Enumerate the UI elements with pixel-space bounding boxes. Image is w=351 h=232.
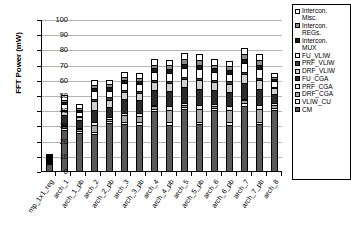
- y-axis-tick-label: 50: [46, 92, 68, 99]
- bar-segment: [121, 83, 128, 90]
- bar-segment: [91, 110, 98, 123]
- stacked-bar[interactable]: [241, 48, 248, 171]
- stacked-bar[interactable]: [226, 61, 233, 171]
- x-axis-label-cell: mp_1x1_reg: [41, 176, 56, 232]
- bar-segment: [211, 82, 218, 90]
- y-axis-tick-label: 0: [46, 168, 68, 175]
- bar-segment: [196, 89, 203, 105]
- bar-segment: [136, 84, 143, 91]
- stacked-bar[interactable]: [136, 73, 143, 171]
- legend-item[interactable]: FU_CGA: [295, 75, 349, 82]
- y-axis-tick-mark: [37, 50, 41, 51]
- bar-segment: [151, 111, 158, 171]
- legend-item[interactable]: FU_VLIW: [295, 52, 349, 59]
- x-axis-label-cell: arch_7_pb: [252, 176, 267, 232]
- legend-label: Intercon. MUX: [302, 37, 327, 51]
- bar-segment: [166, 125, 173, 171]
- bar-slot: [177, 20, 192, 171]
- bar-segment: [226, 92, 233, 106]
- legend-swatch-icon: [295, 9, 300, 14]
- plot-area: [41, 20, 282, 172]
- stacked-bar[interactable]: [106, 80, 113, 171]
- bar-segment: [76, 120, 83, 128]
- bar-segment: [271, 94, 278, 103]
- bar-segment: [91, 134, 98, 171]
- bar-segment: [196, 80, 203, 89]
- bar-segment: [106, 100, 113, 108]
- stacked-bar[interactable]: [211, 59, 218, 171]
- legend-item[interactable]: VLIW_CU: [295, 98, 349, 105]
- legend-label: DRF_CGA: [302, 90, 333, 97]
- legend-label: VLIW_CU: [302, 98, 331, 105]
- bar-segment: [196, 109, 203, 122]
- stacked-bar[interactable]: [91, 80, 98, 171]
- y-axis-tick-label: 80: [46, 46, 68, 53]
- legend-swatch-icon: [295, 76, 300, 81]
- bar-segment: [106, 91, 113, 98]
- legend-item[interactable]: Intercon. MUX: [295, 37, 349, 51]
- legend-item[interactable]: DRF_CGA: [295, 90, 349, 97]
- bar-segment: [121, 99, 128, 113]
- stacked-bar[interactable]: [256, 54, 263, 171]
- legend-item[interactable]: PRF_CGA: [295, 83, 349, 90]
- legend-item[interactable]: PRF_VLIW: [295, 59, 349, 66]
- bar-segment: [241, 63, 248, 71]
- bar-segment: [181, 68, 188, 76]
- legend-item[interactable]: Intercon. Misc.: [295, 7, 349, 21]
- y-axis-tick-mark: [37, 172, 41, 173]
- y-axis-tick-mark: [37, 126, 41, 127]
- bar-segment: [151, 90, 158, 104]
- bar-segment: [271, 110, 278, 171]
- legend-label: FU_CGA: [302, 75, 328, 82]
- legend-label: CM: [302, 106, 312, 113]
- bar-segment: [241, 74, 248, 83]
- bar-series-group: [42, 20, 282, 171]
- bar-segment: [106, 107, 113, 117]
- legend-swatch-icon: [295, 38, 300, 43]
- x-axis-label-cell: arch_8: [267, 176, 282, 232]
- bar-slot: [87, 20, 102, 171]
- stacked-bar[interactable]: [76, 104, 83, 171]
- legend-item[interactable]: DRF_VLIW: [295, 67, 349, 74]
- y-axis-tick-label: 40: [46, 107, 68, 114]
- legend-swatch-icon: [295, 92, 300, 97]
- bar-slot: [267, 20, 282, 171]
- y-axis-tick-mark: [37, 96, 41, 97]
- bar-segment: [121, 124, 128, 171]
- bar-segment: [106, 123, 113, 171]
- bar-segment: [136, 125, 143, 171]
- bar-segment: [166, 73, 173, 81]
- legend-item[interactable]: Intercon. REGs.: [295, 22, 349, 36]
- bar-segment: [181, 109, 188, 171]
- bar-segment: [166, 91, 173, 106]
- legend-label: FU_VLIW: [302, 52, 330, 59]
- bar-slot: [72, 20, 87, 171]
- bar-slot: [132, 20, 147, 171]
- chart-legend: Intercon. Misc.Intercon. REGs.Intercon. …: [292, 4, 351, 180]
- y-axis-tick-mark: [37, 35, 41, 36]
- stacked-bar[interactable]: [271, 73, 278, 171]
- stacked-bar[interactable]: [181, 53, 188, 171]
- legend-item[interactable]: CM: [295, 106, 349, 113]
- y-axis-tick-mark: [37, 157, 41, 158]
- legend-label: Intercon. Misc.: [302, 7, 327, 21]
- bar-segment: [256, 80, 263, 89]
- stacked-bar[interactable]: [196, 54, 203, 171]
- y-axis-tick-label: 10: [46, 153, 68, 160]
- x-axis-label-cell: arch_5_pb: [192, 176, 207, 232]
- legend-swatch-icon: [295, 53, 300, 58]
- bar-segment: [241, 83, 248, 99]
- bar-segment: [181, 87, 188, 103]
- stacked-bar[interactable]: [166, 60, 173, 171]
- x-axis-label-cell: arch_2_pb: [101, 176, 116, 232]
- bar-slot: [147, 20, 162, 171]
- y-axis-tick-label: 20: [46, 138, 68, 145]
- legend-label: PRF_VLIW: [302, 59, 335, 66]
- bar-segment: [211, 110, 218, 171]
- bar-segment: [151, 72, 158, 80]
- bar-slot: [222, 20, 237, 171]
- stacked-bar[interactable]: [121, 72, 128, 171]
- bar-slot: [117, 20, 132, 171]
- stacked-bar[interactable]: [151, 59, 158, 171]
- bar-segment: [211, 72, 218, 80]
